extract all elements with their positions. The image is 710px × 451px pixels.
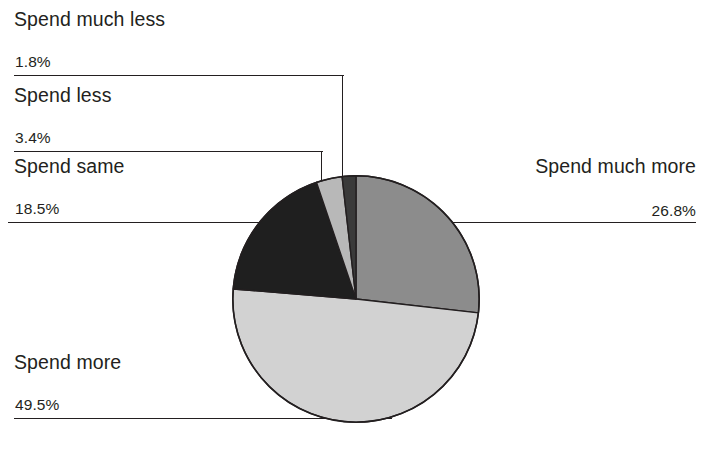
callout-value-spend-same: 18.5%: [15, 201, 59, 217]
pie-graphic: [232, 175, 480, 423]
callout-label-spend-much-more: Spend much more: [535, 157, 696, 177]
pie-chart-figure: Spend much less 1.8% Spend less 3.4% Spe…: [0, 0, 710, 451]
callout-label-spend-more: Spend more: [14, 353, 121, 373]
leader-line-spend-much-less-vertical: [342, 75, 343, 179]
callout-label-spend-much-less: Spend much less: [14, 10, 165, 30]
callout-value-spend-much-more: 26.8%: [535, 203, 696, 219]
leader-line-spend-less-horizontal: [14, 151, 323, 152]
pie-slice-spend-more: [233, 289, 479, 422]
callout-spend-much-more: Spend much more 26.8%: [535, 157, 696, 218]
callout-label-spend-same: Spend same: [14, 157, 125, 177]
pie-slice-group: [233, 176, 479, 422]
callout-value-spend-less: 3.4%: [15, 130, 51, 146]
leader-line-spend-much-less-horizontal: [14, 75, 344, 76]
callout-value-spend-much-less: 1.8%: [15, 54, 51, 70]
pie-svg: [232, 175, 480, 423]
callout-value-spend-more: 49.5%: [15, 397, 59, 413]
callout-label-spend-less: Spend less: [14, 86, 111, 106]
pie-slice-spend-much-more: [356, 176, 479, 313]
